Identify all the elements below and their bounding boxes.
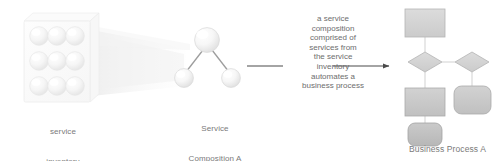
process-shape-task-left (405, 88, 445, 116)
composition-node-parent (195, 28, 220, 53)
inventory-box-top (24, 13, 99, 21)
service-sphere (66, 77, 85, 96)
service-sphere (48, 77, 67, 96)
composition-link-right (212, 50, 229, 72)
concept-diagram (0, 0, 497, 161)
composition-node-child-left (175, 69, 194, 88)
service-sphere (48, 52, 67, 71)
inventory-sphere-grid (30, 27, 85, 96)
process-shape-task-right (454, 86, 491, 114)
inventory-box-side (90, 13, 99, 102)
process-shape-start-task (405, 9, 445, 37)
service-sphere (66, 27, 85, 46)
process-shape-decision-left (408, 52, 442, 72)
service-sphere (66, 52, 85, 71)
service-sphere (30, 77, 49, 96)
inventory-to-composition-beam (92, 26, 190, 96)
composition-link-left (186, 50, 203, 72)
service-sphere (30, 27, 49, 46)
business-process-group (405, 9, 491, 146)
process-shape-decision-right (455, 52, 489, 72)
service-inventory-group (24, 13, 99, 102)
service-sphere (30, 52, 49, 71)
process-shape-end-task (408, 123, 442, 146)
service-sphere (48, 27, 67, 46)
composition-node-child-right (222, 69, 241, 88)
